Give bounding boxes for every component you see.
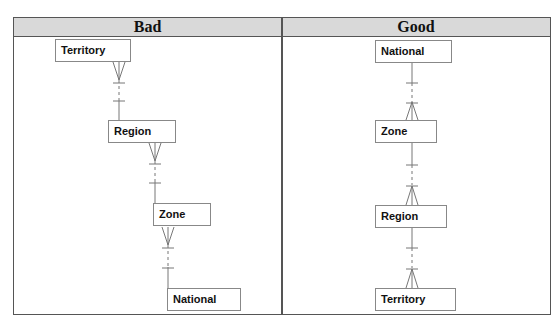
bad-entity-territory: Territory	[55, 39, 131, 62]
good-entity-region: Region	[375, 205, 447, 228]
column-divider	[281, 18, 283, 314]
bad-entity-zone: Zone	[153, 203, 211, 226]
good-entity-national: National	[375, 40, 452, 63]
header-good: Good	[282, 18, 550, 36]
bad-entity-national: National	[167, 288, 241, 311]
bad-entity-region: Region	[108, 120, 176, 143]
good-entity-territory: Territory	[375, 288, 456, 311]
good-entity-zone: Zone	[375, 120, 437, 143]
header-bad: Bad	[14, 18, 281, 36]
